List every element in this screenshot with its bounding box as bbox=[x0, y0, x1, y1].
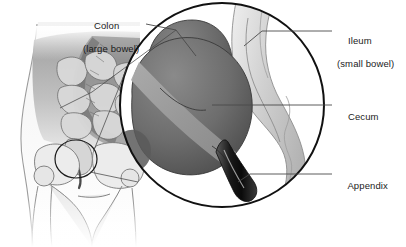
label-colon-line1: Colon bbox=[94, 20, 119, 31]
label-cecum-line1: Cecum bbox=[348, 111, 379, 122]
label-appendix-line1: Appendix bbox=[347, 180, 387, 191]
label-colon: Colon (large bowel) bbox=[83, 8, 139, 77]
label-ileum-line2: (small bowel) bbox=[337, 58, 394, 70]
illustration-canvas: Colon (large bowel) Ileum (small bowel) … bbox=[0, 0, 406, 247]
label-ileum-line1: Ileum bbox=[348, 35, 372, 46]
label-cecum: Cecum bbox=[337, 99, 379, 134]
label-colon-line2: (large bowel) bbox=[83, 43, 139, 55]
label-ileum: Ileum (small bowel) bbox=[337, 23, 394, 92]
label-appendix: Appendix bbox=[337, 168, 388, 203]
